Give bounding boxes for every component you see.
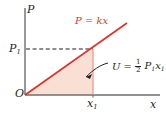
p1-subscript: 1 [16, 48, 20, 56]
strain-energy-terms: P1x1 [144, 61, 164, 72]
x-axis-label: x [150, 99, 156, 110]
line-equation-label: P = kx [75, 16, 108, 26]
p1-tick-label: P1 [9, 43, 21, 56]
y-axis-label: P [27, 4, 34, 15]
strain-energy-equation-label: U = 1 2 P1x1 [112, 59, 165, 74]
fraction-numerator: 1 [135, 59, 141, 66]
origin-label: O [15, 88, 24, 99]
strain-energy-diagram: P x O P1 x1 P = kx U = 1 2 P1x1 [0, 0, 166, 113]
x1-subscript: 1 [93, 103, 97, 111]
strain-energy-lead: U = [112, 62, 132, 72]
x1-tick-label: x1 [87, 98, 98, 111]
term-x-subscript: 1 [161, 65, 165, 72]
fraction-denominator: 2 [135, 66, 141, 74]
one-half-fraction: 1 2 [135, 59, 141, 74]
